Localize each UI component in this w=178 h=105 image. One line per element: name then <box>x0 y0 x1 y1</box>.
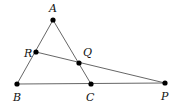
label-b: B <box>12 91 21 104</box>
point-c <box>88 81 93 86</box>
label-p: P <box>160 90 169 103</box>
label-c: C <box>86 91 95 104</box>
geometry-diagram: A B C P Q R <box>0 0 178 105</box>
point-p <box>162 80 167 85</box>
point-b <box>14 81 19 86</box>
point-a <box>50 17 55 22</box>
label-r: R <box>23 47 32 60</box>
label-q: Q <box>83 46 92 59</box>
label-a: A <box>48 2 57 15</box>
point-r <box>33 49 38 54</box>
segment-rp <box>36 52 165 83</box>
point-q <box>76 60 81 65</box>
